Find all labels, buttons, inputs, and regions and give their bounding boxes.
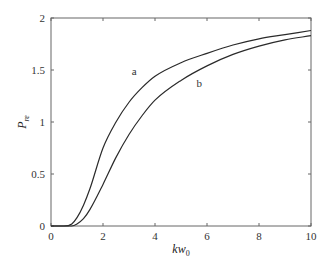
curves	[51, 30, 311, 226]
x-tick-label: 4	[152, 230, 158, 242]
x-tick-label: 10	[306, 230, 318, 242]
y-tick-label: 2	[40, 12, 46, 24]
curve-label-b: b	[196, 77, 202, 89]
x-tick-label: 0	[48, 230, 54, 242]
y-axis-ticks: 00.511.52	[31, 12, 311, 232]
x-axis-ticks: 0246810	[48, 18, 317, 242]
y-axis-label: Pre	[15, 115, 31, 130]
x-axis-label: kw0	[172, 242, 189, 258]
curve-label-a: a	[132, 65, 137, 77]
line-chart: 0246810 00.511.52 ab kw0 Pre	[0, 0, 331, 262]
curve-a	[51, 30, 311, 226]
y-tick-label: 0	[40, 220, 46, 232]
x-tick-label: 6	[204, 230, 210, 242]
plot-frame	[51, 18, 311, 226]
x-tick-label: 2	[100, 230, 106, 242]
y-tick-label: 1.5	[31, 64, 45, 76]
y-tick-label: 1	[40, 116, 46, 128]
y-tick-label: 0.5	[31, 168, 45, 180]
x-tick-label: 8	[256, 230, 262, 242]
curve-b	[51, 36, 311, 226]
